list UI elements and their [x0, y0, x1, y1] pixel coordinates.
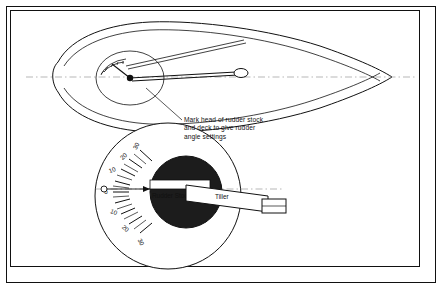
annotation-note: Mark head of rudder stock and deck to gi… [184, 116, 263, 141]
detail-view: 30 20 10 0 10 20 30 Rudder Stock [95, 123, 286, 269]
tiller-label: Tiller [215, 193, 229, 200]
diagram-svg: 30 20 10 0 10 20 30 Rudder Stock [0, 0, 442, 289]
figure-page: 30 20 10 0 10 20 30 Rudder Stock [0, 0, 442, 289]
